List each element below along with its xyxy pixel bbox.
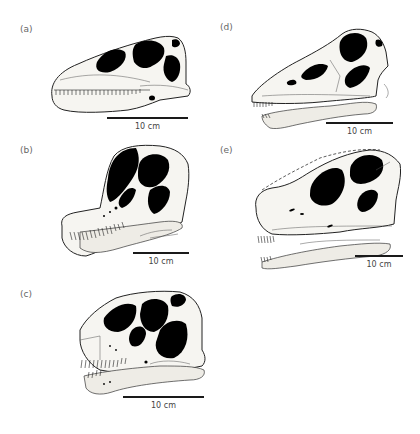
scale-label-c: 10 cm	[123, 401, 204, 410]
skull-illustration-c	[0, 0, 420, 434]
scale-bar-c	[123, 396, 204, 398]
